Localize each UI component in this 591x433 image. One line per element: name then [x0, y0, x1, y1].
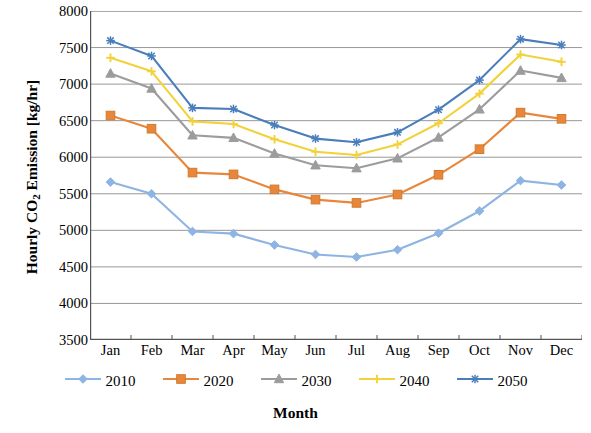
data-point-marker	[470, 375, 479, 384]
data-point-marker	[188, 104, 197, 113]
y-axis-tick-labels: 3500400045005000550060006500700075008000	[40, 0, 88, 350]
co2-emission-line-chart: Hourly CO2 Emission [kg/hr] 350040004500…	[0, 0, 591, 433]
data-point-marker	[352, 151, 361, 160]
data-point-marker	[106, 178, 115, 187]
x-axis-tick-label-jun: Jun	[293, 343, 339, 359]
data-point-marker	[434, 133, 443, 142]
y-axis-tick-label: 4000	[40, 296, 88, 311]
x-axis-tick-label-dec: Dec	[539, 343, 585, 359]
data-point-marker	[352, 199, 361, 208]
legend-marker-asterisk-icon	[456, 372, 494, 390]
y-axis-tick-label: 8000	[40, 4, 88, 19]
data-point-marker	[147, 124, 156, 133]
data-point-marker	[434, 105, 443, 114]
legend-marker-cross-icon	[358, 372, 396, 390]
plot-area	[90, 11, 582, 340]
y-axis-title-suffix: Emission [kg/hr]	[23, 80, 40, 195]
data-point-marker	[475, 145, 484, 154]
data-point-marker	[311, 195, 320, 204]
data-point-marker	[393, 190, 402, 199]
data-point-marker	[270, 121, 279, 130]
y-axis-title: Hourly CO2 Emission [kg/hr]	[23, 12, 41, 342]
data-point-marker	[557, 41, 566, 50]
y-axis-tick-label: 7000	[40, 77, 88, 92]
data-point-marker	[106, 36, 115, 45]
legend-marker-triangle-icon	[260, 372, 298, 390]
x-axis-tick-label-sep: Sep	[416, 343, 462, 359]
series-2030	[106, 66, 566, 172]
data-point-marker	[311, 147, 320, 156]
legend-label: 2010	[106, 374, 136, 389]
x-axis-tick-label-jan: Jan	[88, 343, 134, 359]
data-point-marker	[557, 181, 566, 190]
data-point-marker	[188, 168, 197, 177]
data-point-marker	[393, 128, 402, 137]
y-axis-tick-label: 6500	[40, 113, 88, 128]
series-line	[111, 181, 562, 257]
data-point-marker	[270, 135, 279, 144]
data-point-marker	[229, 170, 238, 179]
data-point-marker	[516, 35, 525, 44]
data-point-marker	[393, 140, 402, 149]
data-point-marker	[147, 52, 156, 61]
legend-item-2020[interactable]: 2020	[162, 372, 234, 390]
data-point-marker	[106, 111, 115, 120]
x-axis-tick-label-feb: Feb	[129, 343, 175, 359]
x-axis-tick-label-nov: Nov	[498, 343, 544, 359]
data-point-marker	[557, 58, 566, 67]
y-axis-tick-label: 5000	[40, 223, 88, 238]
data-point-marker	[106, 69, 115, 78]
series-2050	[106, 35, 566, 147]
legend-label: 2020	[204, 374, 234, 389]
y-axis-tick-label: 7500	[40, 40, 88, 55]
series-2010	[106, 176, 566, 261]
data-point-marker	[176, 375, 185, 384]
data-point-marker	[270, 241, 279, 250]
data-point-marker	[475, 76, 484, 85]
chart-legend: 20102020203020402050	[0, 372, 591, 390]
data-point-marker	[434, 170, 443, 179]
legend-label: 2050	[498, 374, 528, 389]
x-axis-tick-label-jul: Jul	[334, 343, 380, 359]
data-point-marker	[352, 253, 361, 262]
x-axis-tick-label-aug: Aug	[375, 343, 421, 359]
data-point-marker	[229, 105, 238, 114]
data-point-marker	[516, 66, 525, 75]
y-axis-tick-label: 5500	[40, 187, 88, 202]
y-axis-tick-label: 6000	[40, 150, 88, 165]
data-point-marker	[106, 53, 115, 62]
y-axis-tick-label: 4500	[40, 260, 88, 275]
legend-marker-square-icon	[162, 372, 200, 390]
y-axis-title-prefix: Hourly CO	[23, 200, 40, 275]
data-point-marker	[270, 185, 279, 194]
data-point-marker	[372, 375, 381, 384]
series-line	[111, 113, 562, 203]
series-2020	[106, 108, 566, 207]
series-2040	[106, 50, 566, 159]
x-axis-title: Month	[0, 404, 591, 422]
data-point-marker	[78, 375, 87, 384]
data-point-marker	[393, 245, 402, 254]
legend-item-2010[interactable]: 2010	[64, 372, 136, 390]
x-axis-tick-label-may: May	[252, 343, 298, 359]
x-axis-tick-label-apr: Apr	[211, 343, 257, 359]
legend-label: 2040	[400, 374, 430, 389]
data-point-marker	[516, 108, 525, 117]
legend-marker-diamond-icon	[64, 372, 102, 390]
series-line	[111, 39, 562, 142]
data-point-marker	[557, 115, 566, 124]
legend-item-2030[interactable]: 2030	[260, 372, 332, 390]
x-axis-tick-label-mar: Mar	[170, 343, 216, 359]
legend-item-2040[interactable]: 2040	[358, 372, 430, 390]
legend-label: 2030	[302, 374, 332, 389]
data-point-marker	[352, 138, 361, 147]
legend-item-2050[interactable]: 2050	[456, 372, 528, 390]
x-axis-tick-label-oct: Oct	[457, 343, 503, 359]
x-axis-tick-labels: JanFebMarAprMayJunJulAugSepOctNovDec	[90, 343, 582, 365]
data-point-marker	[311, 250, 320, 259]
y-axis-tick-label: 3500	[40, 333, 88, 348]
data-point-marker	[311, 134, 320, 143]
